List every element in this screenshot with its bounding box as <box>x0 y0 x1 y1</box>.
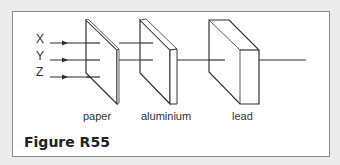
ray-label-x: X <box>36 33 44 45</box>
arrow-z-icon <box>62 75 68 80</box>
lead-block <box>209 20 259 104</box>
ray-label-z: Z <box>36 66 43 78</box>
paper-sheet <box>86 19 119 104</box>
material-label-paper: paper <box>83 110 111 122</box>
arrow-icons <box>62 41 68 80</box>
arrow-y-icon <box>62 58 68 63</box>
aluminium-sheet <box>140 19 177 104</box>
arrow-x-icon <box>62 41 68 46</box>
material-label-lead: lead <box>232 110 253 122</box>
ray-label-y: Y <box>36 50 44 62</box>
figure-caption: Figure R55 <box>24 134 110 150</box>
material-label-aluminium: aluminium <box>141 110 191 122</box>
